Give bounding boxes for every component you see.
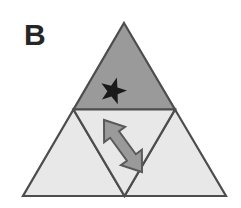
- triangle-diagram: [0, 0, 241, 208]
- figure-panel: B: [0, 0, 241, 208]
- top-subtriangle: [74, 23, 176, 110]
